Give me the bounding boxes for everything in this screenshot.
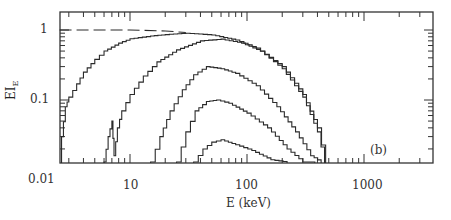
y-axis-label-text: EI [4,87,18,101]
x-axis-label: E (keV) [226,196,271,210]
series-line-4 [177,100,315,163]
data-series [60,30,326,163]
panel-label: (b) [370,143,387,157]
x-tick-label-10: 10 [123,178,138,192]
series-line-0 [60,30,186,33]
y-tick-label-0.01: 0.01 [28,172,55,186]
y-tick-label-0.1: 0.1 [30,92,49,106]
series-line-3 [151,67,322,163]
series-line-2 [104,39,324,163]
axis-ticks [60,12,433,163]
series-line-5 [194,140,287,163]
x-tick-label-1000: 1000 [352,178,383,192]
y-axis-label: EIE [4,81,20,100]
series-line-1 [62,33,326,163]
y-axis-label-subscript: E [11,81,20,87]
x-tick-label-100: 100 [235,178,258,192]
y-tick-label-1: 1 [40,22,48,36]
plot-frame [60,12,433,163]
chart-canvas [0,0,451,220]
